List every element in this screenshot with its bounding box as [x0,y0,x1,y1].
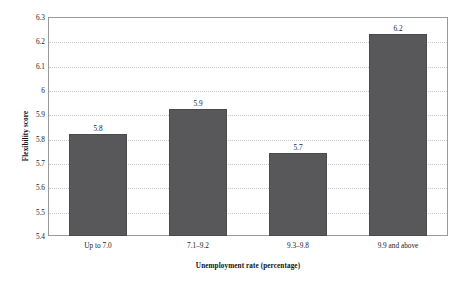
y-tick-label: 6.3 [19,13,45,22]
x-axis-title: Unemployment rate (percentage) [48,262,448,270]
x-tick-label: 9.3–9.8 [248,241,348,250]
bar-value-label: 5.9 [169,99,227,108]
bar-column[interactable]: 5.8 [69,17,127,236]
y-tick-label: 5.4 [19,232,45,241]
bar[interactable] [69,134,127,236]
y-tick-label: 5.5 [19,207,45,216]
x-tick-label: 7.1–9.2 [148,241,248,250]
x-tick-label: Up to 7.0 [48,241,148,250]
y-tick-label: 6 [19,86,45,95]
bar-column[interactable]: 6.2 [369,17,427,236]
bar[interactable] [369,34,427,236]
y-tick-label: 5.6 [19,183,45,192]
bar-column[interactable]: 5.7 [269,17,327,236]
bars-group: 5.85.95.76.2 [48,17,448,236]
y-tick-label: 5.8 [19,134,45,143]
bar[interactable] [269,153,327,236]
bar[interactable] [169,109,227,236]
x-tick-label: 9.9 and above [348,241,448,250]
y-tick-label: 6.2 [19,37,45,46]
bar-value-label: 6.2 [369,24,427,33]
y-tick-label: 5.7 [19,159,45,168]
bar-column[interactable]: 5.9 [169,17,227,236]
bar-value-label: 5.8 [69,124,127,133]
bar-value-label: 5.7 [269,143,327,152]
y-tick-label: 5.9 [19,110,45,119]
bar-chart: Flexibility score 6.36.26.165.95.85.75.6… [0,0,467,281]
y-tick-label: 6.1 [19,61,45,70]
